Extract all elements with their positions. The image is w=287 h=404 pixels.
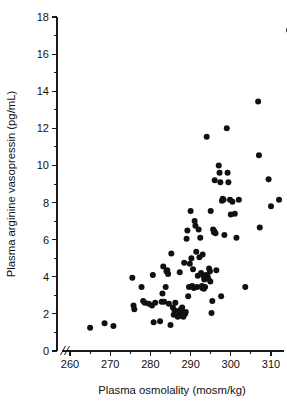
- data-point: [211, 228, 217, 234]
- x-tick-label: 280: [141, 358, 159, 370]
- data-point: [177, 269, 183, 275]
- y-axis-title: Plasma arginine vasopressin (pg/mL): [5, 91, 17, 278]
- data-point: [185, 293, 191, 299]
- x-tick-label: 300: [222, 358, 240, 370]
- data-point: [224, 125, 230, 131]
- y-tick-label: 8: [43, 197, 49, 209]
- data-point: [232, 211, 238, 217]
- data-point: [256, 152, 262, 158]
- data-point: [168, 322, 174, 328]
- data-point: [129, 275, 135, 281]
- data-point: [87, 325, 93, 331]
- data-point: [218, 293, 224, 299]
- data-point: [139, 284, 145, 290]
- y-tick-label: 12: [37, 122, 49, 134]
- y-tick-label: 4: [43, 271, 49, 283]
- data-point: [131, 306, 137, 312]
- data-point: [163, 284, 169, 290]
- data-point: [190, 266, 196, 272]
- data-point: [102, 320, 108, 326]
- data-point: [171, 312, 177, 318]
- data-point: [193, 249, 199, 255]
- data-point: [150, 272, 156, 278]
- data-point: [217, 179, 223, 185]
- data-point: [197, 235, 203, 241]
- data-point: [179, 304, 185, 310]
- x-tick-label: 310: [262, 358, 280, 370]
- data-point: [184, 236, 190, 242]
- data-point: [257, 225, 263, 231]
- y-tick-label: 18: [37, 11, 49, 23]
- y-tick-label: 0: [43, 345, 49, 357]
- data-point: [209, 298, 215, 304]
- data-point: [188, 255, 194, 261]
- data-point: [151, 319, 157, 325]
- data-point: [242, 284, 248, 290]
- data-point: [221, 232, 227, 238]
- data-point: [207, 268, 213, 274]
- data-point: [188, 208, 194, 214]
- y-tick-label: 6: [43, 234, 49, 246]
- data-point: [268, 203, 274, 209]
- data-point: [165, 271, 171, 277]
- data-point: [213, 267, 219, 273]
- data-point: [207, 278, 213, 284]
- data-point: [200, 252, 206, 258]
- x-axis-title: Plasma osmolality (mosm/kg): [98, 384, 246, 396]
- data-point: [159, 299, 165, 305]
- y-tick-label: 16: [37, 48, 49, 60]
- data-point: [225, 170, 231, 176]
- data-point: [227, 197, 233, 203]
- data-point: [208, 208, 214, 214]
- data-point: [219, 198, 225, 204]
- data-point: [195, 273, 201, 279]
- data-point: [199, 285, 205, 291]
- data-point: [152, 300, 158, 306]
- data-point: [209, 310, 215, 316]
- y-tick-label: 10: [37, 159, 49, 171]
- data-point: [110, 323, 116, 329]
- data-point: [191, 285, 197, 291]
- data-point: [276, 197, 282, 203]
- x-tick-label: 270: [101, 358, 119, 370]
- data-point: [168, 251, 174, 257]
- scatter-plot-figure: 024681012141618 260270280290300310 Plasm…: [0, 0, 287, 404]
- x-tick-label: 290: [181, 358, 199, 370]
- data-point: [266, 176, 272, 182]
- data-point: [236, 197, 242, 203]
- chart-canvas: 024681012141618 260270280290300310 Plasm…: [0, 0, 287, 404]
- data-point: [212, 177, 218, 183]
- data-point: [142, 300, 148, 306]
- data-point: [225, 179, 231, 185]
- data-point: [216, 162, 222, 168]
- y-tick-label: 2: [43, 308, 49, 320]
- data-point: [159, 290, 165, 296]
- data-point: [255, 98, 261, 104]
- data-point: [217, 170, 223, 176]
- data-point: [181, 260, 187, 266]
- data-point: [157, 318, 163, 324]
- data-point: [172, 300, 178, 306]
- data-point: [187, 261, 193, 267]
- data-point: [184, 227, 190, 233]
- y-tick-label: 14: [37, 85, 49, 97]
- data-point: [204, 134, 210, 140]
- data-point: [196, 226, 202, 232]
- x-tick-label: 260: [61, 358, 79, 370]
- data-point: [233, 235, 239, 241]
